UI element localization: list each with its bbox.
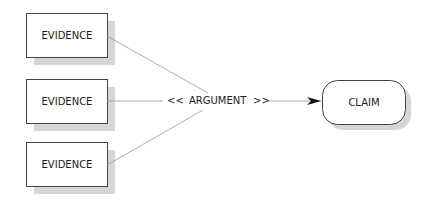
edge-evidence-3 — [107, 110, 203, 165]
diagram-canvas: EVIDENCE EVIDENCE EVIDENCE CLAIM << ARGU… — [0, 0, 432, 202]
evidence-label-1: EVIDENCE — [26, 13, 108, 58]
claim-label: CLAIM — [322, 80, 406, 125]
argument-label: ARGUMENT — [189, 95, 246, 106]
evidence-label-2: EVIDENCE — [26, 79, 108, 124]
argument-right-marker: >> — [253, 95, 270, 106]
argument-left-marker: << — [167, 95, 184, 106]
edge-evidence-1 — [107, 36, 208, 93]
evidence-label-3: EVIDENCE — [26, 142, 108, 187]
